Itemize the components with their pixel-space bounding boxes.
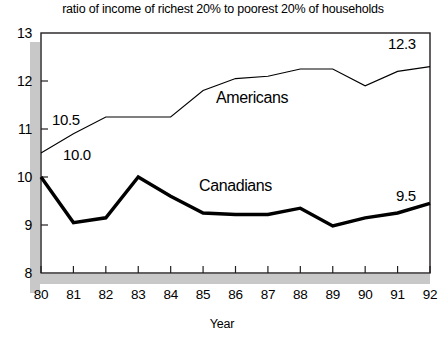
x-axis-tick-label: 87 [254, 288, 282, 302]
x-axis-tick-label: 89 [319, 288, 347, 302]
y-axis-tick-label: 8 [8, 266, 32, 280]
x-axis-tick-label: 81 [59, 288, 87, 302]
plot-frame [41, 33, 430, 273]
x-axis-tick-label: 83 [124, 288, 152, 302]
y-axis-tick-label: 10 [8, 170, 32, 184]
y-axis-tick-label: 12 [8, 74, 32, 88]
frame-shadow-bottom [30, 274, 430, 284]
x-axis-tick-label: 84 [157, 288, 185, 302]
x-axis-tick-label: 85 [189, 288, 217, 302]
x-axis-tick-label: 90 [351, 288, 379, 302]
series-start-value-americans: 10.5 [52, 112, 80, 128]
x-axis-tick-label: 91 [384, 288, 412, 302]
x-axis-tick-label: 92 [416, 288, 444, 302]
chart-container: ratio of income of richest 20% to poores… [0, 0, 446, 337]
y-axis-tick-label: 9 [8, 218, 32, 232]
x-axis-tick-label: 82 [92, 288, 120, 302]
x-axis-tick-label: 80 [27, 288, 55, 302]
series-label-canadians: Canadians [199, 177, 272, 194]
x-axis-tick-label: 88 [286, 288, 314, 302]
series-end-value-canadians: 9.5 [396, 188, 416, 204]
x-axis-tick-label: 86 [222, 288, 250, 302]
series-label-americans: Americans [216, 89, 288, 106]
y-axis-tick-label: 13 [8, 26, 32, 40]
chart-title: ratio of income of richest 20% to poores… [0, 2, 446, 17]
series-start-value-canadians: 10.0 [63, 147, 91, 163]
y-axis-tick-label: 11 [8, 122, 32, 136]
series-end-value-americans: 12.3 [388, 36, 416, 52]
x-axis-title: Year [192, 318, 252, 331]
